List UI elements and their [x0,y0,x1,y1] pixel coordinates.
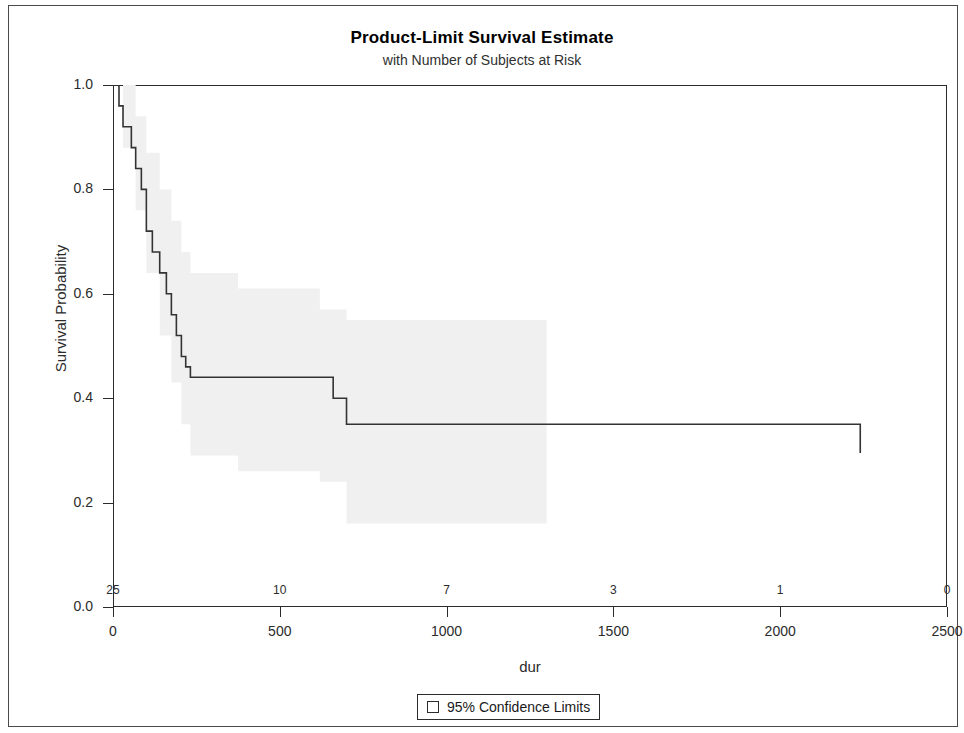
at-risk-count: 7 [417,583,477,597]
y-tick-label: 0.2 [29,494,93,510]
y-tick-label: 0.0 [29,598,93,614]
x-tick-label: 2000 [740,623,820,639]
at-risk-count: 25 [83,583,143,597]
x-tick-label: 500 [240,623,320,639]
x-tick-mark [447,607,448,617]
x-tick-mark [613,607,614,617]
x-axis-label: dur [113,658,947,675]
y-tick-mark [103,607,113,608]
x-tick-mark [947,607,948,617]
survival-curve-canvas [113,85,947,607]
at-risk-count: 1 [750,583,810,597]
y-tick-mark [103,398,113,399]
x-tick-label: 0 [73,623,153,639]
at-risk-count: 0 [917,583,964,597]
confidence-limits-swatch-icon [427,701,439,713]
confidence-band [113,85,547,523]
x-tick-label: 2500 [907,623,964,639]
chart-subtitle: with Number of Subjects at Risk [0,52,964,68]
x-tick-label: 1500 [573,623,653,639]
y-tick-mark [103,85,113,86]
at-risk-count: 10 [250,583,310,597]
legend-box[interactable]: 95% Confidence Limits [417,694,600,720]
chart-title: Product-Limit Survival Estimate [0,28,964,48]
x-tick-label: 1000 [407,623,487,639]
y-tick-mark [103,189,113,190]
x-tick-mark [280,607,281,617]
y-tick-mark [103,294,113,295]
at-risk-count: 3 [583,583,643,597]
x-tick-mark [113,607,114,617]
y-axis-label: Survival Probability [52,189,69,429]
survival-plot-figure: Product-Limit Survival Estimate with Num… [0,0,964,733]
x-tick-mark [780,607,781,617]
y-tick-label: 1.0 [29,76,93,92]
y-tick-mark [103,503,113,504]
legend-item-label: 95% Confidence Limits [447,699,590,715]
